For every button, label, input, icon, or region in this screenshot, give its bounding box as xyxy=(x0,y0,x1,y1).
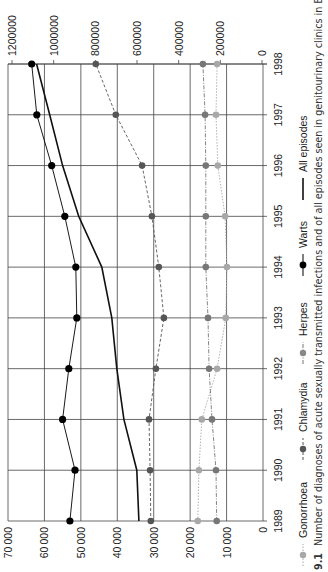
legend-item-chlamydia: Chlamydia xyxy=(297,382,309,460)
year-label: 1991 xyxy=(272,408,284,432)
right-axis-tick-label: 200000 xyxy=(214,21,226,56)
left-axis-tick-label: 30 000 xyxy=(148,527,160,558)
legend-item-warts: Warts xyxy=(297,221,309,276)
left-axis-ticks: 70 00060 00050 00040 00030 00020 00010 0… xyxy=(2,527,269,558)
data-point xyxy=(209,416,216,423)
data-point xyxy=(72,264,79,271)
data-point xyxy=(93,61,100,68)
data-point xyxy=(61,213,68,220)
legend: Gonorrhoea Chlamydia Herpes Warts All ep… xyxy=(297,115,309,566)
data-point xyxy=(146,416,153,423)
data-point xyxy=(148,518,155,525)
warts-marker-icon xyxy=(300,262,307,269)
herpes-marker-icon xyxy=(300,350,306,356)
data-point xyxy=(71,467,78,474)
caption-number: 9.1 xyxy=(313,553,324,570)
data-point xyxy=(214,61,221,68)
data-point xyxy=(196,467,203,474)
svg-text:9.1 Number of diagnoses: 9.1 Number of diagnoses of acute sexuall… xyxy=(313,0,324,570)
data-point xyxy=(28,60,35,67)
chlamydia-marker-icon xyxy=(300,446,306,452)
data-point xyxy=(66,517,73,524)
figure-caption: 9.1 Number of diagnoses of acute sexuall… xyxy=(313,0,324,570)
right-axis-ticks: 120000010000008000006000004000002000000 xyxy=(6,15,268,56)
legend-item-herpes: Herpes xyxy=(297,302,309,364)
year-label: 1990 xyxy=(272,458,284,482)
data-point xyxy=(65,365,72,372)
year-label: 1993 xyxy=(272,306,284,330)
right-axis-tick-label: 400000 xyxy=(173,21,185,56)
right-axis-tick-label: 0 xyxy=(256,50,268,56)
data-point xyxy=(73,314,80,321)
legend-label: Warts xyxy=(297,221,309,248)
legend-label: Herpes xyxy=(297,302,309,336)
legend-item-all-episodes: All episodes xyxy=(297,115,309,200)
caption-text: Number of diagnoses of acute sexually tr… xyxy=(313,0,324,546)
data-point xyxy=(59,416,66,423)
data-point xyxy=(200,61,207,68)
data-point xyxy=(213,467,220,474)
gonorrhoea-marker-icon xyxy=(300,552,306,558)
data-point xyxy=(48,162,55,169)
data-point xyxy=(202,112,209,119)
legend-label: All episodes xyxy=(297,115,309,172)
year-label: 1996 xyxy=(272,154,284,178)
grid-lines xyxy=(8,60,267,521)
data-point xyxy=(205,315,212,322)
x-axis-year-labels: 1989199019911992199319941995199619971998 xyxy=(272,52,284,533)
right-axis-tick-label: 600000 xyxy=(131,21,143,56)
data-point xyxy=(203,264,210,271)
data-point xyxy=(161,315,168,322)
data-point xyxy=(147,467,154,474)
data-point xyxy=(156,264,163,271)
data-point xyxy=(199,416,206,423)
data-point xyxy=(203,213,210,220)
right-axis-tick-label: 1200000 xyxy=(6,15,18,56)
data-point xyxy=(215,162,222,169)
series-gonorrhoea xyxy=(195,61,231,525)
left-axis-tick-label: 50 000 xyxy=(75,527,87,558)
data-point xyxy=(213,518,220,525)
data-point xyxy=(203,162,210,169)
data-point xyxy=(33,111,40,118)
legend-label: Chlamydia xyxy=(297,382,309,432)
series-all-episodes xyxy=(37,64,139,521)
left-axis-tick-label: 20 000 xyxy=(184,527,196,558)
year-label: 1989 xyxy=(272,509,284,533)
right-axis-tick-label: 1000000 xyxy=(48,15,60,56)
legend-item-gonorrhoea: Gonorrhoea xyxy=(297,482,309,566)
data-point xyxy=(113,112,120,119)
legend-label: Gonorrhoea xyxy=(297,482,309,538)
data-point xyxy=(224,264,231,271)
year-label: 1998 xyxy=(272,52,284,76)
data-point xyxy=(206,365,213,372)
left-axis-tick-label: 60 000 xyxy=(38,527,50,558)
series-chlamydia xyxy=(93,61,168,525)
year-label: 1994 xyxy=(272,255,284,279)
data-point xyxy=(213,112,220,119)
rotated-line-chart: 70 00060 00050 00040 00030 00020 00010 0… xyxy=(0,0,328,572)
data-point xyxy=(139,162,146,169)
right-axis-tick-label: 800000 xyxy=(89,21,101,56)
data-point xyxy=(153,365,160,372)
year-label: 1992 xyxy=(272,357,284,381)
data-point xyxy=(223,315,230,322)
year-label: 1997 xyxy=(272,103,284,127)
data-point xyxy=(195,518,202,525)
data-point xyxy=(149,213,156,220)
data-point xyxy=(222,213,229,220)
series-layer xyxy=(28,60,230,524)
data-point xyxy=(214,365,221,372)
left-axis-tick-label: 70 000 xyxy=(2,527,14,558)
year-label: 1995 xyxy=(272,204,284,228)
left-axis-tick-label: 10 000 xyxy=(221,527,233,558)
left-axis-tick-label: 40 000 xyxy=(111,527,123,558)
left-axis-tick-label: 0 xyxy=(257,527,269,533)
